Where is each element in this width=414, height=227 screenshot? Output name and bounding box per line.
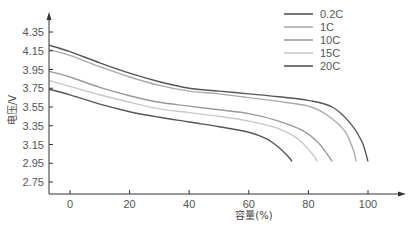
- legend-label: 10C: [320, 34, 340, 46]
- x-axis-arrow-icon: [398, 192, 406, 197]
- legend-label: 1C: [320, 21, 334, 33]
- legend-item: 1C: [284, 21, 334, 33]
- x-ticks: 020406080100: [67, 190, 377, 210]
- x-tick-label: 40: [183, 198, 195, 210]
- x-tick-label: 20: [123, 198, 135, 210]
- x-axis-title: 容量(%): [235, 209, 272, 221]
- y-tick-label: 2.75: [23, 176, 44, 188]
- y-ticks: 4.354.153.953.753.553.353.152.952.75: [23, 26, 53, 188]
- legend-item: 15C: [284, 47, 340, 59]
- y-tick-label: 3.35: [23, 120, 44, 132]
- series-line-20C: [49, 89, 292, 161]
- discharge-curve-chart: 4.354.153.953.753.553.353.152.952.75 020…: [0, 0, 414, 227]
- legend-item: 20C: [284, 60, 340, 72]
- x-tick-label: 100: [359, 198, 377, 210]
- y-axis-arrow-icon: [47, 12, 52, 20]
- legend-label: 0.2C: [320, 8, 343, 20]
- y-tick-label: 3.55: [23, 101, 44, 113]
- axes: 4.354.153.953.753.553.353.152.952.75 020…: [6, 12, 406, 221]
- y-tick-label: 3.75: [23, 82, 44, 94]
- x-tick-label: 60: [243, 198, 255, 210]
- legend-label: 20C: [320, 60, 340, 72]
- x-tick-label: 0: [67, 198, 73, 210]
- x-tick-label: 80: [302, 198, 314, 210]
- y-tick-label: 3.15: [23, 139, 44, 151]
- series-line-10C: [49, 71, 332, 161]
- y-tick-label: 3.95: [23, 64, 44, 76]
- y-tick-label: 4.15: [23, 45, 44, 57]
- y-axis-title: 电压/V: [6, 95, 18, 125]
- y-tick-label: 4.35: [23, 26, 44, 38]
- legend-label: 15C: [320, 47, 340, 59]
- legend: 0.2C1C10C15C20C: [284, 8, 343, 72]
- legend-item: 0.2C: [284, 8, 343, 20]
- legend-item: 10C: [284, 34, 340, 46]
- y-tick-label: 2.95: [23, 157, 44, 169]
